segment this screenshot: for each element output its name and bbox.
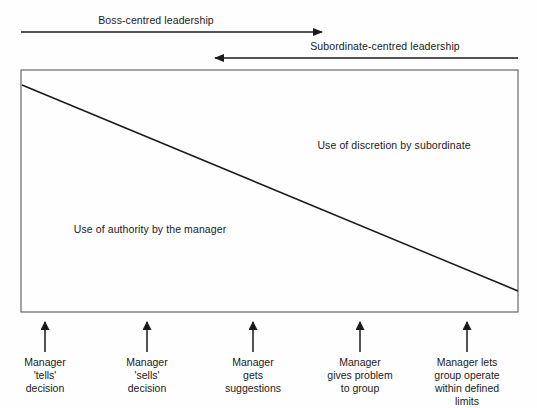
step-label-line: group operate [411, 369, 523, 382]
step-label-line: to group [304, 382, 416, 395]
step-label-line: limits [411, 395, 523, 408]
step-label-sells: Manager 'sells' decision [91, 356, 203, 395]
step-label-line: Manager [304, 356, 416, 369]
continuum-box [21, 70, 518, 312]
step-label-group-operate: Manager lets group operate within define… [411, 356, 523, 408]
step-label-line: within defined [411, 382, 523, 395]
step-label-tells: Manager 'tells' decision [0, 356, 101, 395]
subordinate-centred-label: Subordinate-centred leadership [310, 40, 460, 53]
step-label-line: suggestions [197, 382, 309, 395]
step-label-line: 'sells' [91, 369, 203, 382]
step-label-line: Manager [197, 356, 309, 369]
discretion-region-label: Use of discretion by subordinate [317, 139, 470, 152]
authority-discretion-divider [22, 85, 518, 291]
figure-graphics [0, 0, 537, 408]
leadership-continuum-figure: Boss-centred leadership Subordinate-cent… [0, 0, 537, 408]
authority-region-label: Use of authority by the manager [74, 223, 227, 236]
boss-centred-label: Boss-centred leadership [98, 14, 214, 27]
step-label-problem: Manager gives problem to group [304, 356, 416, 395]
step-label-line: gives problem [304, 369, 416, 382]
step-label-suggestions: Manager gets suggestions [197, 356, 309, 395]
step-label-line: Manager lets [411, 356, 523, 369]
step-label-line: Manager [91, 356, 203, 369]
step-label-line: decision [91, 382, 203, 395]
step-label-line: gets [197, 369, 309, 382]
step-label-line: Manager [0, 356, 101, 369]
step-label-line: 'tells' [0, 369, 101, 382]
step-label-line: decision [0, 382, 101, 395]
